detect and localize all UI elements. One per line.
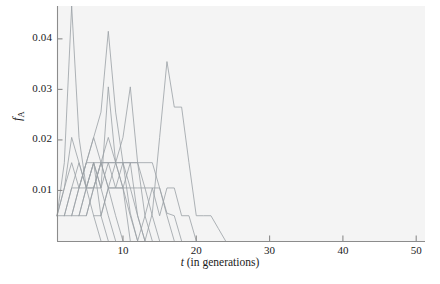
y-axis-title-variable: f (10, 118, 24, 121)
x-axis-title: t (in generations) (0, 256, 440, 268)
x-tick-label: 50 (396, 244, 436, 256)
y-tick-label: 0.04 (6, 31, 52, 43)
y-axis-title: fA (10, 94, 27, 138)
tick-mark-group (57, 39, 416, 241)
data-line (64, 87, 130, 241)
y-axis-title-subscript: A (16, 111, 26, 117)
data-line (57, 163, 116, 241)
x-tick-label: 40 (323, 244, 363, 256)
x-axis-title-rest: (in generations) (184, 256, 259, 268)
x-tick-label: 30 (250, 244, 290, 256)
figure-container: 0.010.020.030.04 1020304050 t (in genera… (0, 0, 440, 284)
y-tick-label: 0.01 (6, 183, 52, 195)
chart-svg (0, 0, 440, 284)
x-tick-label: 10 (103, 244, 143, 256)
x-tick-label: 20 (176, 244, 216, 256)
data-line (145, 62, 226, 241)
y-tick-label: 0.03 (6, 82, 52, 94)
data-line (57, 6, 108, 241)
data-line-group (57, 6, 226, 241)
